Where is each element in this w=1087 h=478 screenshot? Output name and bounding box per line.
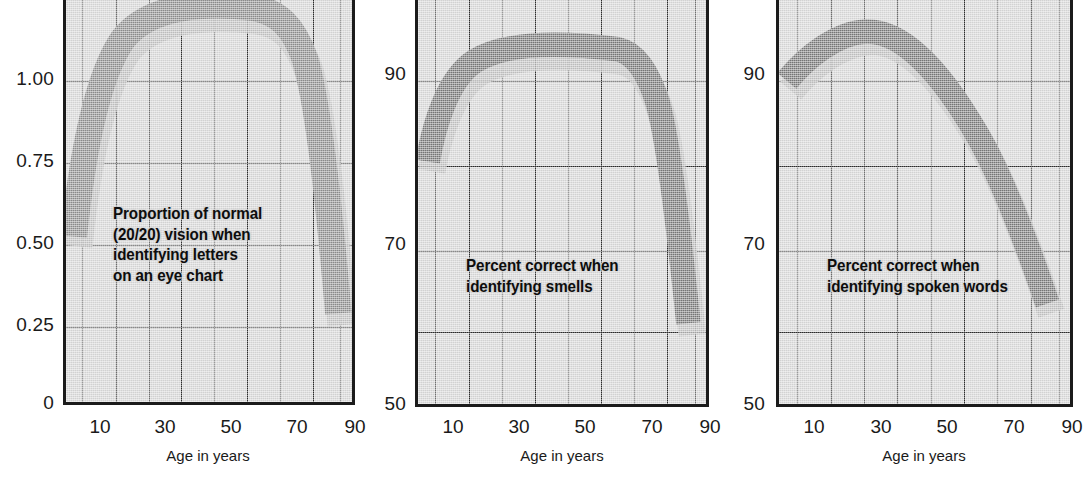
ytick-label: 0 bbox=[0, 392, 54, 414]
x-axis-title: Age in years bbox=[128, 447, 288, 464]
plot-area-smell bbox=[415, 0, 709, 407]
xtick-label: 70 bbox=[996, 416, 1032, 438]
caption-vision: Proportion of normal (20/20) vision when… bbox=[113, 203, 311, 285]
x-axis-title: Age in years bbox=[844, 447, 1004, 464]
ytick-label: 0.75 bbox=[0, 150, 54, 172]
plot-area-hearing bbox=[776, 0, 1073, 407]
xtick-label: 50 bbox=[567, 416, 603, 438]
ytick-label: 0.50 bbox=[0, 232, 54, 254]
xtick-label: 50 bbox=[213, 416, 249, 438]
xtick-label: 30 bbox=[147, 416, 183, 438]
xtick-label: 70 bbox=[279, 416, 315, 438]
xtick-label: 30 bbox=[501, 416, 537, 438]
panel-vision: Proportion of normal (20/20) vision when… bbox=[0, 0, 360, 478]
data-band-hearing bbox=[779, 0, 1070, 404]
x-axis-title: Age in years bbox=[482, 447, 642, 464]
ytick-label: 1.00 bbox=[0, 68, 54, 90]
xtick-label: 50 bbox=[929, 416, 965, 438]
xtick-label: 90 bbox=[1054, 416, 1087, 438]
panel-smell: Percent correct when identifying smells … bbox=[360, 0, 720, 478]
caption-smell: Percent correct when identifying smells bbox=[466, 255, 664, 296]
caption-hearing: Percent correct when identifying spoken … bbox=[827, 255, 1039, 296]
panel-hearing: Percent correct when identifying spoken … bbox=[720, 0, 1081, 478]
data-band-vision bbox=[66, 0, 352, 402]
xtick-label: 10 bbox=[82, 416, 118, 438]
xtick-label: 10 bbox=[435, 416, 471, 438]
xtick-label: 30 bbox=[863, 416, 899, 438]
data-band-smell bbox=[418, 0, 706, 404]
ytick-label: 0.25 bbox=[0, 314, 54, 336]
xtick-label: 70 bbox=[634, 416, 670, 438]
xtick-label: 10 bbox=[796, 416, 832, 438]
